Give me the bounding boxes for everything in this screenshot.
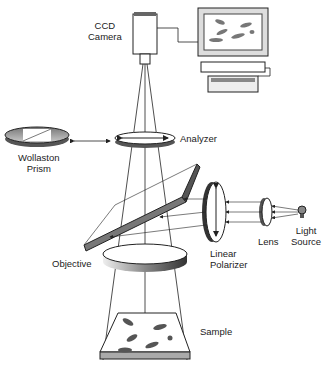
wollaston-prism xyxy=(5,127,69,147)
label-light-source: Light Source xyxy=(291,225,321,247)
computer xyxy=(198,8,270,92)
camera-cable xyxy=(157,28,198,42)
label-wollaston-line1: Wollaston xyxy=(18,152,60,163)
microscope-diagram xyxy=(0,0,328,371)
objective xyxy=(103,244,187,272)
illumination-arrows xyxy=(110,199,262,237)
label-objective: Objective xyxy=(52,258,92,269)
label-lens: Lens xyxy=(258,236,279,247)
beam-splitter xyxy=(84,164,200,251)
analyzer xyxy=(115,132,175,148)
label-wollaston-line2: Prism xyxy=(18,163,60,174)
label-ccd-line1: CCD xyxy=(88,20,122,31)
label-sample: Sample xyxy=(200,326,232,337)
label-linear-polarizer: Linear Polarizer xyxy=(210,248,248,270)
label-analyzer: Analyzer xyxy=(180,133,217,144)
label-ccd-camera: CCD Camera xyxy=(88,20,122,42)
label-linear-line2: Polarizer xyxy=(210,259,248,270)
label-ccd-line2: Camera xyxy=(88,31,122,42)
label-light-line1: Light xyxy=(291,225,321,236)
label-light-line2: Source xyxy=(291,236,321,247)
ccd-camera xyxy=(133,12,157,64)
label-linear-line1: Linear xyxy=(210,248,248,259)
light-source-icon xyxy=(272,206,306,218)
sample xyxy=(100,313,190,359)
label-wollaston-prism: Wollaston Prism xyxy=(18,152,60,174)
